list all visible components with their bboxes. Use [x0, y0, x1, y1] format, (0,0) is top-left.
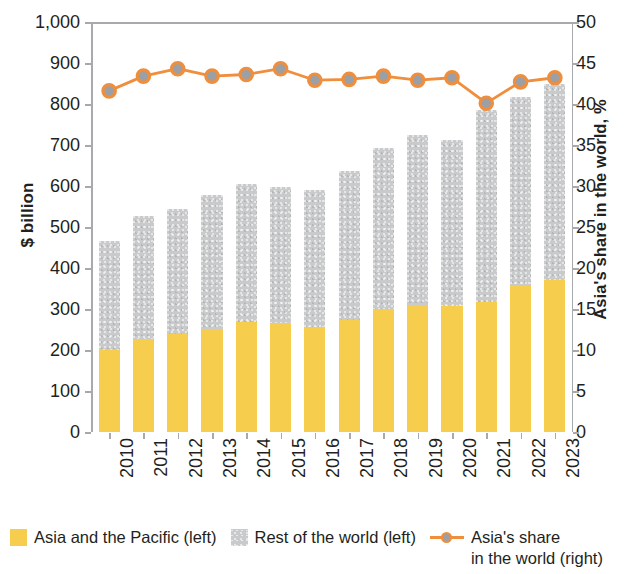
y-tick-label-left: 600	[50, 177, 80, 195]
y-tick-label-left: 0	[70, 423, 80, 441]
y-tick-label-right: 20	[576, 259, 596, 277]
chart-figure: $ billion Asia's share in the world, % 0…	[0, 0, 636, 574]
line-marker-point[interactable]	[206, 70, 218, 82]
y-tickmark-right	[573, 432, 579, 434]
y-tickmark-left	[85, 350, 91, 352]
y-tick-label-left: 700	[50, 136, 80, 154]
y-tick-label-right: 25	[576, 218, 596, 236]
y-tick-label-right: 45	[576, 54, 596, 72]
y-tickmark-right	[573, 63, 579, 65]
x-tick-label: 2014	[255, 438, 273, 478]
y-tick-label-right: 30	[576, 177, 596, 195]
y-tickmark-right	[573, 186, 579, 188]
line-marker-point[interactable]	[446, 72, 458, 84]
y-axis-left-ticks: 01002003004005006007008009001,000	[0, 0, 80, 574]
plot-area	[92, 22, 572, 432]
x-tick-label: 2018	[392, 438, 410, 478]
legend-line-marker-icon	[430, 529, 464, 546]
legend-item-rest-of-world[interactable]: Rest of the world (left)	[231, 527, 416, 548]
y-tickmark-right	[573, 350, 579, 352]
y-tickmark-left	[85, 22, 91, 24]
y-tick-label-right: 40	[576, 95, 596, 113]
y-tick-label-right: 35	[576, 136, 596, 154]
x-tick-label: 2020	[461, 438, 479, 478]
y-tickmark-right	[573, 22, 579, 24]
line-marker-point[interactable]	[412, 74, 424, 86]
y-tick-label-right: 15	[576, 300, 596, 318]
chart-legend: Asia and the Pacific (left) Rest of the …	[10, 527, 636, 574]
line-marker-point[interactable]	[274, 63, 286, 75]
y-tickmark-left	[85, 145, 91, 147]
y-tickmark-left	[85, 104, 91, 106]
legend-item-asia-share[interactable]: Asia's sharein the world (right)	[430, 527, 603, 568]
y-tickmark-right	[573, 309, 579, 311]
line-marker-point[interactable]	[309, 74, 321, 86]
y-tickmark-right	[573, 268, 579, 270]
legend-label-asia-share: Asia's sharein the world (right)	[471, 527, 603, 568]
x-tick-label: 2022	[530, 438, 548, 478]
y-tickmark-right	[573, 227, 579, 229]
y-tick-label-left: 300	[50, 300, 80, 318]
line-marker-point[interactable]	[480, 97, 492, 109]
x-tick-label: 2011	[152, 438, 170, 477]
x-tick-label: 2010	[118, 438, 136, 478]
y-tickmark-right	[573, 145, 579, 147]
line-marker-point[interactable]	[240, 68, 252, 80]
legend-swatch-rest-icon	[231, 529, 248, 546]
y-tickmark-left	[85, 268, 91, 270]
y-tick-label-left: 1,000	[35, 13, 80, 31]
y-tick-label-left: 900	[50, 54, 80, 72]
x-tick-label: 2023	[564, 438, 582, 478]
y-tick-label-left: 400	[50, 259, 80, 277]
line-marker-point[interactable]	[172, 63, 184, 75]
y-tickmark-left	[85, 391, 91, 393]
y-tickmark-left	[85, 186, 91, 188]
y-tickmark-left	[85, 63, 91, 65]
x-tick-label: 2017	[358, 438, 376, 478]
x-axis-tick-labels: 2010201120122013201420152016201720182019…	[92, 438, 572, 518]
line-marker-point[interactable]	[549, 72, 561, 84]
y-tickmark-left	[85, 309, 91, 311]
y-tick-label-left: 500	[50, 218, 80, 236]
x-tick-label: 2016	[324, 438, 342, 478]
y-tick-label-right: 50	[576, 13, 596, 31]
y-tick-label-left: 800	[50, 95, 80, 113]
y-tickmark-right	[573, 391, 579, 393]
legend-item-asia[interactable]: Asia and the Pacific (left)	[10, 527, 217, 548]
y-axis-right-ticks: 05101520253035404550	[576, 0, 636, 574]
line-series-layer	[92, 22, 572, 432]
x-tick-label: 2015	[290, 438, 308, 478]
line-marker-point[interactable]	[137, 70, 149, 82]
line-marker-point[interactable]	[514, 76, 526, 88]
legend-label-rest-of-world: Rest of the world (left)	[255, 527, 416, 548]
legend-label-asia: Asia and the Pacific (left)	[34, 527, 217, 548]
line-marker-point[interactable]	[103, 85, 115, 97]
y-tick-label-right: 10	[576, 341, 596, 359]
legend-swatch-asia-icon	[10, 529, 27, 546]
y-tick-label-left: 100	[50, 382, 80, 400]
line-marker-point[interactable]	[343, 73, 355, 85]
y-tick-label-left: 200	[50, 341, 80, 359]
x-tick-label: 2019	[427, 438, 445, 478]
y-tickmark-left	[85, 432, 91, 434]
y-tickmark-left	[85, 227, 91, 229]
x-tick-label: 2021	[495, 438, 513, 478]
y-tickmark-right	[573, 104, 579, 106]
line-marker-point[interactable]	[377, 70, 389, 82]
x-tick-label: 2013	[221, 438, 239, 478]
x-tick-label: 2012	[187, 438, 205, 478]
